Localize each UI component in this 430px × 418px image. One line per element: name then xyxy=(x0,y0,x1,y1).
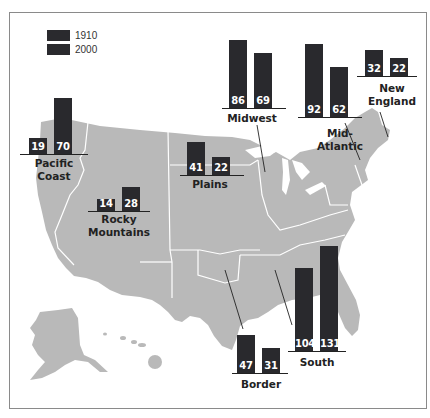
bar-2000: 22 xyxy=(212,157,230,175)
bar-2000: 70 xyxy=(54,98,72,154)
bar-2000: 22 xyxy=(390,58,408,76)
bar-value: 22 xyxy=(390,63,408,74)
bar-value: 31 xyxy=(262,360,280,371)
bar-1910: 14 xyxy=(97,199,115,211)
baseline xyxy=(20,154,88,155)
baseline xyxy=(180,175,244,176)
baseline xyxy=(232,373,288,374)
legend-item-2000: 2000 xyxy=(47,44,97,55)
region-label-border: Border xyxy=(232,378,290,391)
bar-value: 47 xyxy=(237,360,255,371)
bar-value: 41 xyxy=(187,162,205,173)
baseline xyxy=(357,76,417,77)
bar-2000: 31 xyxy=(262,348,280,373)
legend-swatch-2000 xyxy=(47,44,70,55)
bar-value: 62 xyxy=(330,104,348,115)
alaska-shape xyxy=(30,308,108,380)
region-label-midwest: Midwest xyxy=(222,112,282,125)
legend-item-1910: 1910 xyxy=(47,30,97,41)
bar-1910: 47 xyxy=(237,335,255,373)
bar-value: 70 xyxy=(54,141,72,152)
baseline xyxy=(88,211,150,212)
legend-swatch-1910 xyxy=(47,30,70,41)
bar-value: 92 xyxy=(305,104,323,115)
hawaii-shape xyxy=(148,355,162,369)
bar-value: 131 xyxy=(320,338,338,349)
bar-value: 22 xyxy=(212,162,230,173)
bar-2000: 62 xyxy=(330,67,348,117)
bar-group-new-england: 32 22 xyxy=(358,50,418,76)
bar-1910: 19 xyxy=(29,138,47,154)
bar-group-rocky-mountains: 14 28 xyxy=(88,187,150,211)
baseline xyxy=(222,108,286,109)
bar-2000: 28 xyxy=(122,187,140,211)
bar-value: 32 xyxy=(365,63,383,74)
bar-value: 19 xyxy=(29,141,47,152)
bar-1910: 104 xyxy=(295,268,313,351)
region-label-pacific-coast: Pacific Coast xyxy=(20,157,88,183)
bar-1910: 41 xyxy=(187,142,205,175)
bar-1910: 92 xyxy=(305,44,323,117)
legend-label-2000: 2000 xyxy=(75,44,97,55)
bar-group-pacific-coast: 19 70 xyxy=(20,98,88,154)
region-label-new-england: New England xyxy=(364,82,420,108)
bar-group-south: 104 131 xyxy=(287,246,347,351)
bar-group-mid-atlantic: 92 62 xyxy=(298,44,362,117)
bar-1910: 32 xyxy=(365,50,383,76)
bar-2000: 69 xyxy=(254,53,272,108)
bar-group-midwest: 86 69 xyxy=(222,40,286,108)
legend-label-1910: 1910 xyxy=(75,30,97,41)
baseline xyxy=(288,351,346,352)
region-label-south: South xyxy=(292,356,342,369)
region-label-mid-atlantic: Mid- Atlantic xyxy=(312,127,368,153)
bar-1910: 86 xyxy=(229,40,247,108)
bar-2000: 131 xyxy=(320,246,338,351)
bar-value: 86 xyxy=(229,95,247,106)
baseline xyxy=(298,117,362,118)
bar-value: 14 xyxy=(97,198,115,209)
bar-value: 104 xyxy=(295,338,313,349)
region-label-plains: Plains xyxy=(180,178,240,191)
bar-value: 69 xyxy=(254,95,272,106)
region-label-rocky-mountains: Rocky Mountains xyxy=(80,213,158,239)
bar-group-plains: 41 22 xyxy=(180,142,244,175)
bar-value: 28 xyxy=(122,198,140,209)
